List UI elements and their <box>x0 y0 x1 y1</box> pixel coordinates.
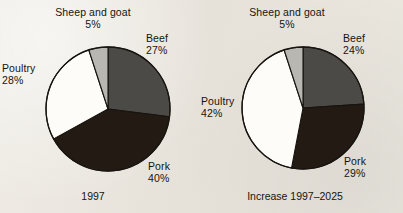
label-pork-1997-value: 40% <box>148 172 192 184</box>
label-poultry-1997: Poultry 28% <box>2 62 54 86</box>
label-beef-increase-value: 24% <box>343 44 389 56</box>
label-pork-1997: Pork 40% <box>148 160 192 184</box>
label-pork-increase: Pork 29% <box>344 155 388 179</box>
pie-chart-figure-page: Sheep and goat 5% Beef 27% Poultry 28% P… <box>0 0 403 213</box>
chart-1997: Sheep and goat 5% Beef 27% Poultry 28% P… <box>0 0 201 213</box>
label-beef-increase-name: Beef <box>343 32 365 44</box>
label-beef-increase: Beef 24% <box>343 32 389 56</box>
label-pork-increase-value: 29% <box>344 167 388 179</box>
label-sheep-and-goat-increase: Sheep and goat 5% <box>228 6 346 30</box>
label-sheep-and-goat-increase-value: 5% <box>228 18 346 30</box>
label-beef-1997: Beef 27% <box>146 32 192 56</box>
label-poultry-1997-name: Poultry <box>2 62 35 74</box>
label-beef-1997-name: Beef <box>146 32 168 44</box>
chart-increase-1997-2025: Sheep and goat 5% Beef 24% Poultry 42% P… <box>201 0 403 213</box>
label-poultry-increase-name: Poultry <box>201 95 234 107</box>
label-poultry-increase-value: 42% <box>201 107 255 119</box>
caption-increase-1997-2025: Increase 1997–2025 <box>229 190 361 202</box>
label-poultry-increase: Poultry 42% <box>201 95 255 119</box>
label-pork-1997-name: Pork <box>148 160 170 172</box>
label-sheep-and-goat-1997-name: Sheep and goat <box>55 6 131 18</box>
label-beef-1997-value: 27% <box>146 44 192 56</box>
label-pork-increase-name: Pork <box>344 155 366 167</box>
caption-1997: 1997 <box>58 190 128 202</box>
label-sheep-and-goat-1997: Sheep and goat 5% <box>34 6 152 30</box>
label-sheep-and-goat-1997-value: 5% <box>34 18 152 30</box>
label-sheep-and-goat-increase-name: Sheep and goat <box>249 6 325 18</box>
label-poultry-1997-value: 28% <box>2 74 54 86</box>
slice-beef-1997 <box>108 47 170 117</box>
